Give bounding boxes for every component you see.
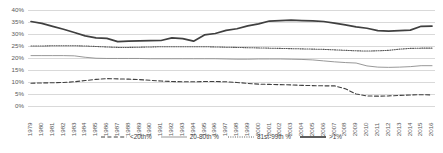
legend-item[interactable]: 81st-99th %	[228, 134, 291, 140]
plot-area	[28, 10, 435, 106]
legend-swatch-icon	[161, 134, 187, 140]
chart-legend: <20th%20-80th %81st-99th %>1%	[0, 134, 443, 140]
chart-series-layer	[28, 10, 435, 106]
legend-label: <20th%	[130, 134, 152, 140]
series-line	[31, 79, 432, 97]
series-line	[31, 20, 432, 42]
legend-label: 20-80th %	[190, 134, 219, 140]
legend-item[interactable]: >1%	[300, 134, 342, 140]
legend-label: >1%	[329, 134, 342, 140]
y-tick-label: 30%	[0, 31, 24, 37]
series-line	[31, 56, 432, 68]
legend-item[interactable]: 20-80th %	[161, 134, 219, 140]
y-tick-label: 10%	[0, 79, 24, 85]
chart-container: 40%35%30%25%20%15%10%5%0% 19791980198119…	[0, 0, 443, 153]
y-tick-label: 20%	[0, 55, 24, 61]
y-tick-label: 25%	[0, 43, 24, 49]
y-tick-label: 5%	[0, 91, 24, 97]
legend-swatch-icon	[228, 134, 254, 140]
y-tick-label: 15%	[0, 67, 24, 73]
legend-swatch-icon	[101, 134, 127, 140]
series-line	[31, 46, 432, 51]
legend-swatch-icon	[300, 134, 326, 140]
y-tick-label: 0%	[0, 103, 24, 109]
legend-label: 81st-99th %	[257, 134, 291, 140]
y-tick-label: 35%	[0, 19, 24, 25]
gridline	[28, 106, 435, 107]
legend-item[interactable]: <20th%	[101, 134, 152, 140]
y-tick-label: 40%	[0, 7, 24, 13]
